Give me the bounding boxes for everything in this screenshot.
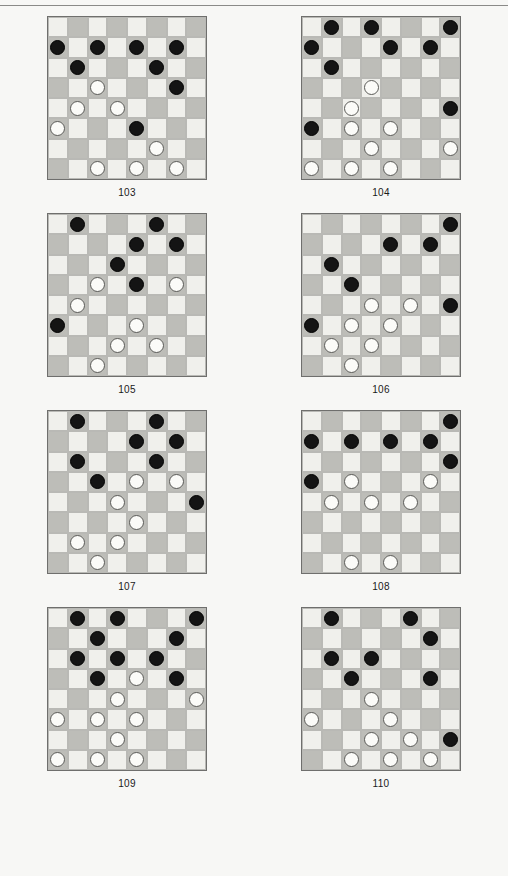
board-square[interactable]	[127, 58, 147, 78]
board-square[interactable]	[361, 214, 381, 234]
board-square[interactable]	[186, 98, 206, 118]
board-square[interactable]	[401, 336, 421, 356]
board-square[interactable]	[127, 275, 147, 295]
board-square[interactable]	[167, 553, 187, 573]
board-square[interactable]	[302, 533, 322, 553]
board-square[interactable]	[361, 234, 381, 254]
board-square[interactable]	[167, 315, 187, 335]
board-square[interactable]	[167, 336, 187, 356]
white-piece[interactable]	[129, 161, 144, 176]
board-square[interactable]	[322, 234, 342, 254]
board-square[interactable]	[88, 608, 108, 628]
black-piece[interactable]	[149, 60, 164, 75]
board-square[interactable]	[401, 512, 421, 532]
board-square[interactable]	[342, 275, 362, 295]
board-square[interactable]	[48, 750, 68, 770]
board-square[interactable]	[186, 628, 206, 648]
board-square[interactable]	[127, 411, 147, 431]
board-square[interactable]	[440, 275, 460, 295]
board-square[interactable]	[440, 553, 460, 573]
white-piece[interactable]	[344, 318, 359, 333]
board-square[interactable]	[361, 608, 381, 628]
board-square[interactable]	[186, 139, 206, 159]
board-square[interactable]	[88, 214, 108, 234]
white-piece[interactable]	[364, 732, 379, 747]
board-square[interactable]	[68, 512, 88, 532]
board-square[interactable]	[361, 628, 381, 648]
white-piece[interactable]	[70, 298, 85, 313]
board-square[interactable]	[127, 17, 147, 37]
board-square[interactable]	[68, 336, 88, 356]
board-square[interactable]	[48, 492, 68, 512]
board-square[interactable]	[342, 159, 362, 179]
board-square[interactable]	[48, 58, 68, 78]
board-square[interactable]	[361, 533, 381, 553]
board-square[interactable]	[361, 452, 381, 472]
board-square[interactable]	[127, 533, 147, 553]
board-square[interactable]	[88, 431, 108, 451]
board-square[interactable]	[322, 689, 342, 709]
white-piece[interactable]	[344, 752, 359, 767]
board-square[interactable]	[107, 512, 127, 532]
black-piece[interactable]	[403, 611, 418, 626]
board-square[interactable]	[440, 98, 460, 118]
board-square[interactable]	[302, 452, 322, 472]
board-square[interactable]	[302, 689, 322, 709]
board-square[interactable]	[361, 315, 381, 335]
board-square[interactable]	[322, 255, 342, 275]
board-square[interactable]	[167, 37, 187, 57]
board-square[interactable]	[147, 356, 167, 376]
board-square[interactable]	[381, 750, 401, 770]
white-piece[interactable]	[344, 101, 359, 116]
white-piece[interactable]	[110, 338, 125, 353]
board-square[interactable]	[342, 336, 362, 356]
board-square[interactable]	[322, 275, 342, 295]
black-piece[interactable]	[169, 80, 184, 95]
board-square[interactable]	[381, 17, 401, 37]
black-piece[interactable]	[129, 434, 144, 449]
board-square[interactable]	[167, 492, 187, 512]
board-square[interactable]	[167, 118, 187, 138]
board-square[interactable]	[147, 492, 167, 512]
board-square[interactable]	[421, 553, 441, 573]
board-square[interactable]	[440, 315, 460, 335]
board-square[interactable]	[361, 411, 381, 431]
board-square[interactable]	[342, 411, 362, 431]
board-square[interactable]	[48, 472, 68, 492]
board-square[interactable]	[107, 669, 127, 689]
board-square[interactable]	[48, 709, 68, 729]
black-piece[interactable]	[169, 671, 184, 686]
white-piece[interactable]	[364, 298, 379, 313]
board-square[interactable]	[421, 159, 441, 179]
white-piece[interactable]	[110, 692, 125, 707]
board-square[interactable]	[322, 78, 342, 98]
board-square[interactable]	[381, 492, 401, 512]
board-square[interactable]	[361, 689, 381, 709]
board-square[interactable]	[322, 17, 342, 37]
black-piece[interactable]	[129, 277, 144, 292]
board-square[interactable]	[48, 78, 68, 98]
board-square[interactable]	[302, 139, 322, 159]
black-piece[interactable]	[90, 631, 105, 646]
board-square[interactable]	[381, 512, 401, 532]
black-piece[interactable]	[344, 277, 359, 292]
black-piece[interactable]	[324, 20, 339, 35]
board-square[interactable]	[68, 649, 88, 669]
black-piece[interactable]	[383, 237, 398, 252]
board-square[interactable]	[361, 431, 381, 451]
board-square[interactable]	[48, 608, 68, 628]
board-square[interactable]	[302, 234, 322, 254]
board-square[interactable]	[167, 730, 187, 750]
white-piece[interactable]	[90, 712, 105, 727]
board-square[interactable]	[48, 275, 68, 295]
white-piece[interactable]	[50, 712, 65, 727]
black-piece[interactable]	[423, 671, 438, 686]
board-square[interactable]	[107, 608, 127, 628]
board-square[interactable]	[88, 336, 108, 356]
board-square[interactable]	[68, 492, 88, 512]
board-square[interactable]	[167, 649, 187, 669]
board-square[interactable]	[167, 689, 187, 709]
white-piece[interactable]	[304, 161, 319, 176]
board-square[interactable]	[147, 159, 167, 179]
board-square[interactable]	[167, 275, 187, 295]
